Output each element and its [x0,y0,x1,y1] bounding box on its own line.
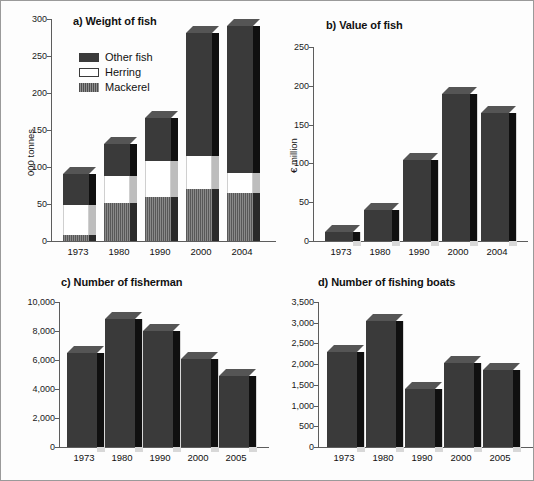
bar-side-face [249,376,256,447]
bar-side-face [513,370,520,447]
bar-front-face [327,352,357,447]
x-axis-tick-label: 1973 [330,246,351,257]
bar-segment-other-fish[interactable] [145,118,171,161]
bar-top-face [364,203,399,210]
y-axis-tick-label: 3,000 [272,318,314,328]
bar-segment-herring[interactable] [104,176,130,203]
x-axis-tick-label: 1990 [408,246,429,257]
x-axis-tick-label: 1990 [149,246,170,257]
x-axis-tick-label: 2000 [450,452,471,463]
bar-top-face [325,225,360,232]
x-axis-tick-label: 1980 [372,452,393,463]
bar-side-face [392,210,399,241]
y-axis-tick [314,447,318,448]
bar-front-face [186,156,212,189]
bar-side-face [470,94,477,241]
bar-1990[interactable] [143,331,173,447]
figure-container: a) Weight of fish 000 tonnes Other fishH… [0,0,534,481]
bar-segment-other-fish[interactable] [63,174,89,205]
bar-2004[interactable] [481,113,509,241]
bar-2000[interactable] [442,94,470,241]
bar-front-face [403,160,431,241]
bar-segment-herring[interactable] [63,205,89,235]
y-axis-tick [47,19,51,20]
bar-1973[interactable] [327,352,357,447]
y-axis-tick [314,406,318,407]
bar-segment-herring[interactable] [227,173,253,193]
y-axis-tick-label: 250 [5,51,47,61]
bar-top-face [403,153,438,160]
bar-front-face [227,26,253,173]
bar-segment-other-fish[interactable] [227,26,253,173]
x-axis-tick-label: 1973 [73,452,94,463]
bar-top-face [67,346,104,353]
bar-front-face [181,359,211,447]
bar-side-face [431,160,438,241]
bar-front-face [364,210,392,241]
bar-1980[interactable] [366,321,396,447]
bar-segment-other-fish[interactable] [186,33,212,156]
bar-top-face [181,352,218,359]
y-axis-line [59,302,60,448]
bar-side-face [171,161,178,197]
panel-c-title: c) Number of fisherman [61,276,182,288]
bar-segment-mackerel[interactable] [63,235,89,241]
y-axis-tick [55,331,59,332]
panel-d-title: d) Number of fishing boats [318,276,455,288]
y-axis-tick-label: 10,000 [13,297,55,307]
bar-side-face [357,352,364,447]
bar-side-face [135,319,142,447]
y-axis-tick [55,447,59,448]
bar-front-face [63,205,89,235]
bar-2005[interactable] [219,376,249,447]
y-axis-tick-label: 50 [5,199,47,209]
bar-segment-herring[interactable] [186,156,212,189]
y-axis-tick [47,93,51,94]
y-axis-tick-label: 0 [13,442,55,452]
bar-1990[interactable] [405,389,435,447]
bar-1980[interactable] [364,210,392,241]
bar-1990[interactable] [403,160,431,241]
y-axis-tick [47,204,51,205]
x-axis-tick-label: 2000 [190,246,211,257]
bar-front-face [442,94,470,241]
bar-front-face [67,353,97,447]
bar-front-face [366,321,396,447]
bar-front-face [483,370,513,447]
bar-front-face [219,376,249,447]
x-axis-line [318,447,533,448]
bar-top-face [105,312,142,319]
bar-front-face [63,174,89,205]
bar-1980[interactable] [105,319,135,447]
x-axis-tick-label: 1990 [411,452,432,463]
bar-1973[interactable] [67,353,97,447]
bar-side-face [130,176,137,203]
x-axis-tick-label: 2004 [231,246,252,257]
y-axis-tick-label: 8,000 [13,326,55,336]
y-axis-tick [309,47,313,48]
bar-top-face [104,137,137,144]
y-axis-tick-label: 0 [272,442,314,452]
bar-2000[interactable] [181,359,211,447]
y-axis-tick [309,86,313,87]
bar-front-face [227,193,253,241]
bar-front-face [325,232,353,241]
y-axis-tick-label: 0 [5,236,47,246]
x-axis-tick-label: 1980 [111,452,132,463]
bar-side-face [171,197,178,241]
bar-segment-herring[interactable] [145,161,171,197]
y-axis-tick [314,323,318,324]
y-axis-tick [309,241,313,242]
bar-2005[interactable] [483,370,513,447]
bar-front-face [405,389,435,447]
y-axis-tick-label: 0 [267,236,309,246]
bar-segment-mackerel[interactable] [227,193,253,241]
bar-segment-mackerel[interactable] [186,188,212,241]
bar-segment-mackerel[interactable] [145,197,171,241]
bar-1973[interactable] [325,232,353,241]
panel-weight-of-fish: a) Weight of fish 000 tonnes Other fishH… [1,1,268,261]
bar-segment-other-fish[interactable] [104,144,130,176]
bar-2000[interactable] [444,363,474,447]
bar-segment-mackerel[interactable] [104,203,130,241]
bar-top-face [405,382,442,389]
